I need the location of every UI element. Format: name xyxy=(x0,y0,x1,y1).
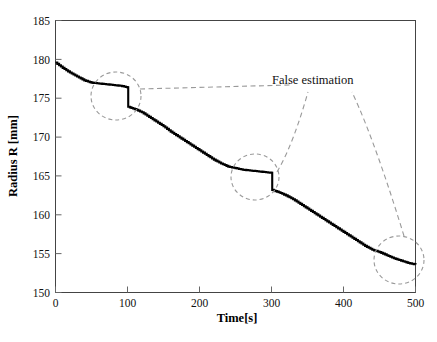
y-axis-title: Radius R [mm] xyxy=(6,115,20,197)
chart-canvas: 185 180 175 170 165 160 155 150 0 100 20… xyxy=(0,0,437,342)
figure-container: 185 180 175 170 165 160 155 150 0 100 20… xyxy=(0,0,437,342)
chart-background xyxy=(0,0,437,342)
y-tick-label: 160 xyxy=(33,209,51,221)
x-tick-label: 300 xyxy=(263,297,281,309)
y-tick-label: 155 xyxy=(33,248,51,260)
y-tick-label: 170 xyxy=(33,131,51,143)
x-tick-label: 100 xyxy=(119,297,137,309)
x-tick-label: 0 xyxy=(53,297,59,309)
y-tick-label: 165 xyxy=(33,170,51,182)
x-tick-label: 500 xyxy=(407,297,425,309)
false-estimation-label: False estimation xyxy=(272,73,354,87)
y-tick-label: 150 xyxy=(33,287,51,299)
x-tick-label: 400 xyxy=(335,297,353,309)
x-axis-title: Time[s] xyxy=(217,311,258,325)
y-tick-label: 180 xyxy=(33,54,51,66)
y-tick-label: 175 xyxy=(33,92,51,104)
y-tick-label: 185 xyxy=(33,15,51,27)
x-tick-label: 200 xyxy=(191,297,209,309)
